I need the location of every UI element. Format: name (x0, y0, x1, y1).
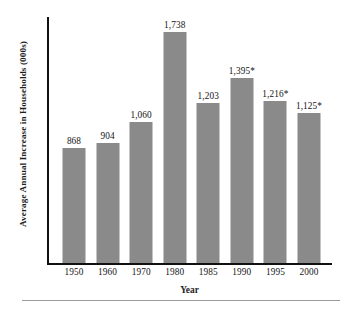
x-tick-1950: 1950 (57, 267, 91, 277)
bar-value-label-2000: 1,125* (296, 101, 322, 111)
bar-2000 (298, 113, 321, 263)
bar-1960 (96, 143, 119, 263)
bar-1980 (163, 32, 186, 263)
x-tick-1995: 1995 (258, 267, 292, 277)
bar-1995 (264, 101, 287, 263)
x-axis-line (47, 263, 332, 265)
x-tick-1985: 1985 (191, 267, 225, 277)
x-tick-labels: 19501960197019801985199019952000 (47, 267, 332, 283)
bar-group-1980: 1,738 (158, 17, 192, 263)
bar-1985 (197, 103, 220, 263)
x-tick-2000: 2000 (292, 267, 326, 277)
bar-value-label-1985: 1,203 (198, 91, 219, 101)
x-tick-1990: 1990 (225, 267, 259, 277)
x-tick-1980: 1980 (158, 267, 192, 277)
x-axis-title: Year (47, 285, 332, 295)
bar-value-label-1980: 1,738 (164, 20, 185, 30)
y-axis-title-text: Average Annual Increase in Households (0… (18, 41, 28, 227)
bar-group-1995: 1,216* (258, 17, 292, 263)
bar-value-label-1995: 1,216* (262, 89, 288, 99)
bar-group-1985: 1,203 (191, 17, 225, 263)
x-tick-1960: 1960 (91, 267, 125, 277)
bar-group-1960: 904 (91, 17, 125, 263)
bottom-divider (22, 300, 340, 301)
x-tick-1970: 1970 (124, 267, 158, 277)
bar-group-1990: 1,395* (225, 17, 259, 263)
bar-1950 (63, 148, 86, 263)
bar-1990 (230, 78, 253, 263)
y-axis-title: Average Annual Increase in Households (0… (0, 0, 46, 268)
bar-group-2000: 1,125* (292, 17, 326, 263)
bar-value-label-1970: 1,060 (130, 110, 151, 120)
bar-value-label-1990: 1,395* (229, 66, 255, 76)
bar-value-label-1960: 904 (100, 131, 114, 141)
bar-1970 (130, 122, 153, 263)
bar-value-label-1950: 868 (67, 136, 81, 146)
bar-group-1970: 1,060 (124, 17, 158, 263)
chart-figure: Average Annual Increase in Households (0… (0, 0, 351, 309)
bar-group-1950: 868 (57, 17, 91, 263)
plot-area: 8689041,0601,7381,2031,395*1,216*1,125* (47, 17, 332, 263)
